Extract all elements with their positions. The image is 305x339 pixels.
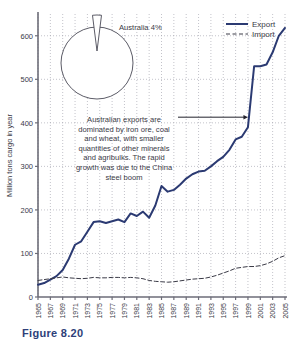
x-tick-label: 2003 (269, 303, 276, 319)
x-tick-label: 1989 (183, 303, 190, 319)
x-tick-label: 1973 (84, 303, 91, 319)
y-tick-label: 600 (20, 32, 33, 41)
trade-line-chart: 0100200300400500600Million tons cargo in… (0, 0, 305, 339)
x-tick-label: 1969 (59, 303, 66, 319)
annotation-line: quantities of other minerals (78, 144, 169, 153)
x-tick-label: 1999 (245, 303, 252, 319)
annotation-line: growth was due to the China (76, 163, 173, 172)
x-tick-label: 1977 (109, 303, 116, 319)
annotation-line: and wheat, with smaller (84, 134, 164, 143)
legend-label-export: Export (252, 20, 276, 29)
y-tick-label: 200 (20, 206, 33, 215)
y-tick-label: 500 (20, 75, 33, 84)
annotation-line: and agribulks. The rapid (83, 153, 164, 162)
x-tick-label: 1967 (47, 303, 54, 319)
x-tick-label: 1983 (146, 303, 153, 319)
x-tick-label: 2001 (257, 303, 264, 319)
x-tick-label: 1987 (170, 303, 177, 319)
y-tick-label: 400 (20, 119, 33, 128)
x-tick-label: 1993 (208, 303, 215, 319)
y-tick-label: 300 (20, 162, 33, 171)
annotation-line: dominated by iron ore, coal (78, 125, 170, 134)
annotation-line: Australian exports are (87, 115, 161, 124)
legend-label-import: Import (252, 30, 275, 39)
figure-caption: Figure 8.20 (22, 327, 83, 339)
annotation-line: steel boom (105, 173, 142, 182)
x-tick-label: 1997 (232, 303, 239, 319)
y-tick-label: 0 (29, 293, 33, 302)
x-tick-label: 1991 (195, 303, 202, 319)
x-tick-label: 1985 (158, 303, 165, 319)
annotation-arrow-head (243, 115, 248, 119)
x-tick-label: 1981 (133, 303, 140, 319)
y-tick-label: 100 (20, 249, 33, 258)
x-tick-label: 2005 (282, 303, 289, 319)
x-tick-label: 1965 (35, 303, 42, 319)
x-tick-label: 1975 (96, 303, 103, 319)
y-axis-title: Million tons cargo in year (5, 114, 14, 197)
inset-pie-label: Australia 4% (119, 23, 162, 32)
x-tick-label: 1995 (220, 303, 227, 319)
x-tick-label: 1971 (72, 303, 79, 319)
figure-container: 0100200300400500600Million tons cargo in… (0, 0, 305, 339)
x-tick-label: 1979 (121, 303, 128, 319)
